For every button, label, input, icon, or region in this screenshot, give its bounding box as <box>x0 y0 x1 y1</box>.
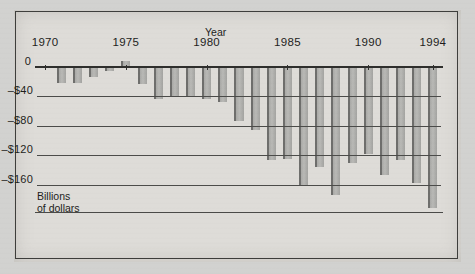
bar-1992 <box>396 66 405 160</box>
gridline-neg120: –$120 <box>37 155 441 156</box>
x-axis-label-1990: 1990 <box>355 36 382 48</box>
bar-1971 <box>57 66 66 83</box>
bar-1989 <box>348 66 357 163</box>
bar-1978 <box>170 66 179 96</box>
y-axis-label-neg120: –$120 <box>1 143 33 156</box>
bar-1980 <box>202 66 211 99</box>
x-tick-1990 <box>368 65 369 70</box>
figure-page: Year 0–$40–$80–$120–$160 197019751980198… <box>0 0 475 274</box>
bar-1985 <box>283 66 292 159</box>
bar-1988 <box>331 66 340 195</box>
gridline-neg40: –$40 <box>37 96 441 97</box>
bar-1993 <box>412 66 421 183</box>
bar-1977 <box>154 66 163 99</box>
y-axis-unit-label: Billions of dollars <box>37 190 80 214</box>
bar-1991 <box>380 66 389 175</box>
bar-1976 <box>138 66 147 84</box>
gridline-0: 0 <box>35 66 443 68</box>
bar-1987 <box>315 66 324 167</box>
y-axis-label-neg40: –$40 <box>8 84 33 97</box>
y-axis-label-0: 0 <box>25 55 31 68</box>
x-tick-1975 <box>126 65 127 70</box>
gridline-neg160: –$160 <box>37 185 441 186</box>
bar-1972 <box>73 66 82 83</box>
gridline-neg80: –$80 <box>37 126 441 127</box>
plot-bottom-line <box>35 212 443 213</box>
x-tick-1994 <box>433 65 434 70</box>
bar-1994 <box>428 66 437 208</box>
x-axis-label-1980: 1980 <box>193 36 220 48</box>
bar-1984 <box>267 66 276 160</box>
x-axis-label-1994: 1994 <box>420 36 447 48</box>
bar-1982 <box>234 66 243 121</box>
x-tick-1970 <box>45 65 46 70</box>
bar-1983 <box>251 66 260 130</box>
bar-1979 <box>186 66 195 96</box>
y-axis-label-neg80: –$80 <box>8 114 33 127</box>
x-tick-1980 <box>207 65 208 70</box>
x-axis-label-1975: 1975 <box>112 36 139 48</box>
plot-area: 0–$40–$80–$120–$160 19701975198019851990… <box>37 66 441 185</box>
x-axis-label-1985: 1985 <box>274 36 301 48</box>
y-axis-label-neg160: –$160 <box>1 173 33 186</box>
bar-1990 <box>364 66 373 154</box>
x-axis-label-1970: 1970 <box>32 36 59 48</box>
x-tick-1985 <box>287 65 288 70</box>
